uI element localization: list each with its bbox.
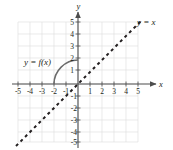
y-tick-label: 1: [70, 66, 74, 75]
x-axis-label: x: [158, 79, 163, 89]
y-tick-label: -1: [71, 92, 77, 101]
y-tick-label: 3: [70, 42, 74, 51]
axes: [12, 12, 156, 148]
x-tick-label: -2: [51, 87, 57, 96]
y-tick-label: -5: [71, 138, 77, 147]
y-tick-label: 4: [70, 30, 74, 39]
x-tick-label: 3: [112, 87, 116, 96]
y-tick-label: -3: [71, 116, 77, 125]
y-tick-label: -4: [71, 128, 77, 137]
x-tick-label: 1: [88, 87, 92, 96]
identity-line-y-equals-x: [16, 20, 142, 146]
x-tick-label: -1: [63, 87, 69, 96]
y-tick-label: 2: [70, 54, 74, 63]
x-tick-label: -5: [15, 87, 21, 96]
x-tick-label: -3: [39, 87, 45, 96]
x-tick-label: -4: [27, 87, 33, 96]
y-axis-label: y: [76, 1, 81, 11]
x-tick-label: 4: [124, 87, 128, 96]
function-curve-label: y = f(x): [23, 57, 51, 67]
y-tick-label: 5: [70, 18, 74, 27]
x-tick-label: 2: [100, 87, 104, 96]
y-tick-label: -2: [71, 104, 77, 113]
x-tick-label: 5: [136, 87, 140, 96]
coordinate-plane-svg: -5 -4 -3 -2 -1 1 2 3 4 5 5 4 3 2 1 -1 -2…: [0, 0, 173, 150]
graph-figure: -5 -4 -3 -2 -1 1 2 3 4 5 5 4 3 2 1 -1 -2…: [0, 0, 173, 150]
y-tick-labels: 5 4 3 2 1 -1 -2 -3 -4 -5: [70, 18, 77, 147]
identity-line-label: y = x: [136, 17, 156, 27]
